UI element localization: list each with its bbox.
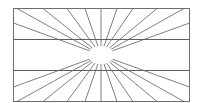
ray-line — [43, 9, 93, 49]
outer-frame — [14, 9, 190, 102]
ray-line — [43, 62, 93, 102]
ray-line — [85, 9, 98, 47]
ray-line — [109, 9, 157, 49]
ray-line — [17, 61, 91, 102]
ray-line — [67, 9, 95, 48]
ray-line — [85, 64, 98, 102]
ray-line — [109, 62, 157, 102]
radiating-rays — [14, 9, 190, 102]
ray-line — [17, 9, 91, 50]
illusion-diagram — [0, 0, 197, 103]
ray-line — [67, 63, 95, 102]
